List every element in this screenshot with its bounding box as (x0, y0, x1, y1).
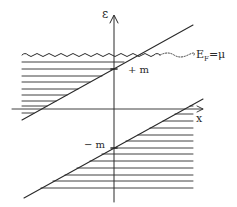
fermi-level-dotted (160, 53, 194, 57)
fermi-equals-mu: =μ (209, 48, 225, 61)
energy-axis-label: ε (102, 8, 108, 20)
upper-hatching (22, 62, 124, 113)
upper-band-line (22, 25, 193, 120)
fermi-e: E (196, 48, 204, 61)
x-axis (12, 106, 203, 112)
minus-m-label: − m (84, 140, 105, 150)
x-axis-label: x (196, 113, 202, 124)
band-diagram (0, 0, 237, 207)
fermi-level-label: EF=μ (196, 49, 225, 63)
energy-axis (110, 15, 118, 202)
plus-m-label: + m (128, 65, 149, 75)
